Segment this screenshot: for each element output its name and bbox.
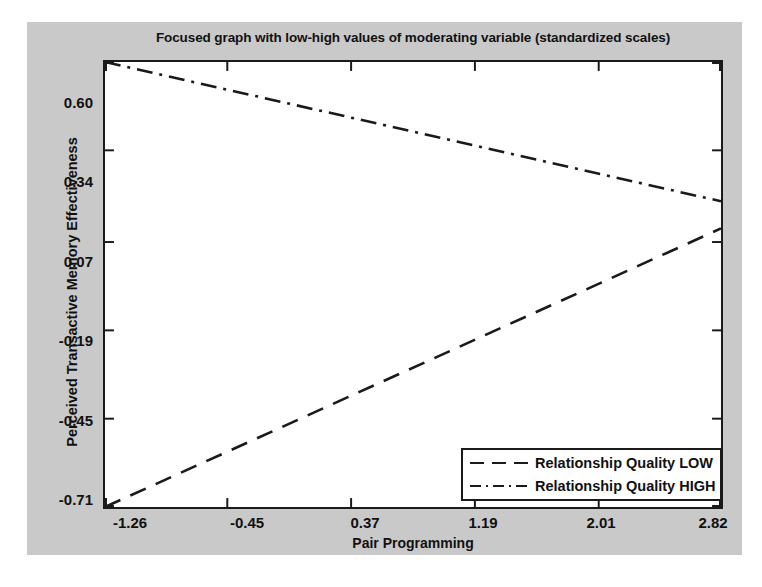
series-line-high: [105, 62, 721, 201]
y-tick-label: 0.60: [31, 94, 93, 111]
x-tick-label: 2.82: [678, 514, 748, 531]
data-series-group: [105, 62, 721, 507]
x-tick-label: 1.19: [448, 514, 518, 531]
y-tick-label: -0.45: [31, 412, 93, 429]
legend-swatch-dashdot-icon: [469, 479, 531, 493]
axis-ticks: [105, 62, 721, 507]
plot-svg: [105, 62, 721, 507]
figure-canvas: Focused graph with low-high values of mo…: [27, 22, 742, 555]
x-axis-label: Pair Programming: [103, 535, 723, 551]
legend-item-high: Relationship Quality HIGH: [463, 475, 720, 498]
y-tick-label: 0.34: [31, 173, 93, 190]
y-tick-label: -0.71: [31, 491, 93, 508]
chart-title: Focused graph with low-high values of mo…: [103, 30, 723, 45]
y-tick-label: -0.19: [31, 332, 93, 349]
legend-swatch-dashed-icon: [469, 456, 531, 470]
x-tick-label: 2.01: [566, 514, 636, 531]
legend-label-low: Relationship Quality LOW: [535, 455, 713, 471]
legend-label-high: Relationship Quality HIGH: [535, 478, 715, 494]
plot-area: [103, 60, 723, 509]
y-tick-label: 0.07: [31, 253, 93, 270]
x-tick-label: -1.26: [95, 514, 165, 531]
legend: Relationship Quality LOW Relationship Qu…: [461, 448, 722, 501]
legend-item-low: Relationship Quality LOW: [463, 452, 720, 475]
chart-screenshot: Focused graph with low-high values of mo…: [0, 0, 762, 587]
x-tick-label: 0.37: [330, 514, 400, 531]
y-axis-label: Perceived Transactive Memory Effectivene…: [64, 92, 80, 492]
x-tick-label: -0.45: [212, 514, 282, 531]
